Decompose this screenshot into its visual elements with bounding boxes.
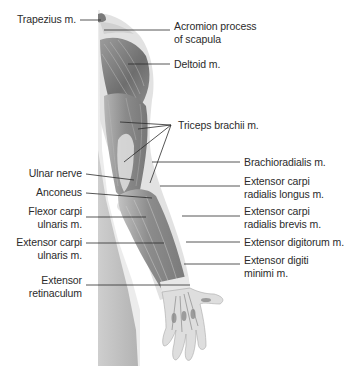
label-extensor-retinaculum: Extensor retinaculum <box>4 274 82 299</box>
label-text: Extensor carpi <box>0 236 82 249</box>
label-text: Deltoid m. <box>174 58 220 71</box>
label-ulnar-nerve: Ulnar nerve <box>4 167 82 180</box>
label-acromion: Acromion process of scapula <box>174 20 256 45</box>
label-brachioradialis: Brachioradialis m. <box>244 156 326 169</box>
label-text: ulnaris m. <box>0 249 82 262</box>
label-text: Brachioradialis m. <box>244 156 326 169</box>
label-text: retinaculum <box>4 287 82 300</box>
label-text: Flexor carpi <box>4 205 82 218</box>
label-text: Anconeus <box>4 186 82 199</box>
label-trapezius: Trapezius m. <box>8 13 76 26</box>
label-extensor-carpi-ulnaris: Extensor carpi ulnaris m. <box>0 236 82 261</box>
hand <box>162 288 223 360</box>
label-text: radialis longus m. <box>244 188 324 201</box>
label-text: Extensor digiti <box>244 254 308 267</box>
label-anconeus: Anconeus <box>4 186 82 199</box>
label-extensor-digitorum: Extensor digitorum m. <box>244 236 344 249</box>
label-ecrl: Extensor carpi radialis longus m. <box>244 175 324 200</box>
label-text: minimi m. <box>244 267 308 280</box>
label-text: Trapezius m. <box>8 13 76 26</box>
label-text: Acromion process <box>174 20 256 33</box>
label-ecrb: Extensor carpi radialis brevis m. <box>244 205 321 230</box>
label-text: Extensor carpi <box>244 175 324 188</box>
label-text: Extensor digitorum m. <box>244 236 344 249</box>
anatomy-figure: Trapezius m. Ulnar nerve Anconeus Flexor… <box>0 0 353 366</box>
label-flexor-carpi-ulnaris: Flexor carpi ulnaris m. <box>4 205 82 230</box>
label-text: radialis brevis m. <box>244 218 321 231</box>
label-deltoid: Deltoid m. <box>174 58 220 71</box>
label-text: of scapula <box>174 33 256 46</box>
label-text: Triceps brachii m. <box>178 119 259 132</box>
label-text: Extensor <box>4 274 82 287</box>
label-extensor-digiti-minimi: Extensor digiti minimi m. <box>244 254 308 279</box>
label-triceps: Triceps brachii m. <box>178 119 259 132</box>
label-text: Ulnar nerve <box>4 167 82 180</box>
label-text: ulnaris m. <box>4 218 82 231</box>
label-text: Extensor carpi <box>244 205 321 218</box>
